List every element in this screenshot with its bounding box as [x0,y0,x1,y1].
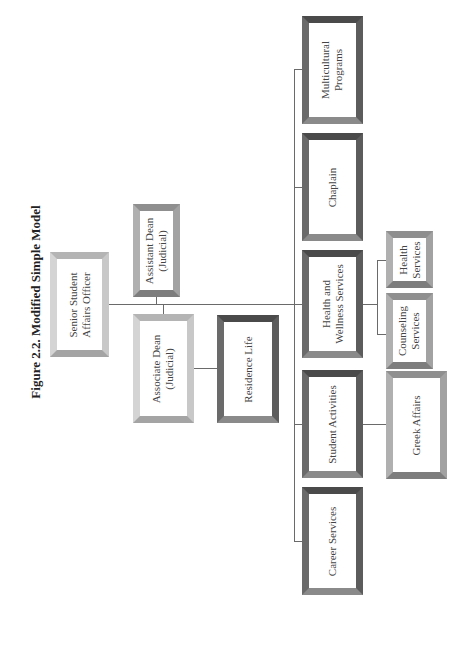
figure-title: Figure 2.2. Modified Simple Model [28,205,44,398]
node-greek-affairs: Greek Affairs [386,371,447,479]
connector-greek-affairs [363,424,386,425]
node-health-and-wellness-services: Health andWellness Services [302,250,363,358]
connector-multicultural [294,69,302,70]
connector-main-horizontal [109,304,295,305]
connector-associate-dean [163,305,164,314]
node-residence-life: Residence Life [217,315,279,423]
node-student-activities: Student Activities [302,370,363,478]
node-senior-student-affairs-officer: Senior StudentAffairs Officer [50,252,109,357]
node-counseling-services: CounselingServices [386,293,433,369]
node-assistant-dean-judicial: Assistant Dean(Judicial) [133,204,180,297]
connector-counseling-services [377,334,386,335]
connector-chaplain [294,187,302,188]
connector-spine [294,69,295,542]
connector-assistant-dean [156,297,157,305]
connector-student-activities [294,424,302,425]
node-health-services: HealthServices [386,231,433,288]
connector-career-services [294,541,302,542]
connector-residence-life [194,368,217,369]
connector-health-services [377,260,386,261]
node-associate-dean-judicial: Associate Dean(Judicial) [133,314,194,423]
node-chaplain: Chaplain [302,133,363,241]
node-career-services: Career Services [302,487,363,595]
connector-hw-vertical [377,260,378,335]
connector-hw-horizontal [363,304,377,305]
connector-health-wellness [294,304,302,305]
node-multicultural-programs: MulticulturalPrograms [302,16,363,124]
